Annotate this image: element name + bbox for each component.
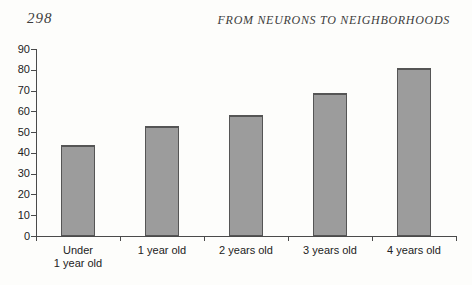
x-tick	[372, 237, 373, 241]
y-tick-label: 50	[4, 126, 30, 139]
x-tick	[288, 237, 289, 241]
bar	[313, 93, 347, 236]
x-tick	[204, 237, 205, 241]
x-tick	[456, 237, 457, 241]
y-axis-line	[36, 49, 37, 237]
y-tick	[31, 194, 36, 195]
x-tick	[120, 237, 121, 241]
y-tick	[31, 215, 36, 216]
y-tick-label: 90	[4, 43, 30, 56]
x-category-label: 4 years old	[364, 244, 464, 257]
x-category-label-line: 1 year old	[28, 257, 128, 270]
book-page: 298 FROM NEURONS TO NEIGHBORHOODS 010203…	[0, 0, 472, 285]
y-tick	[31, 153, 36, 154]
y-tick-label: 40	[4, 146, 30, 159]
y-tick-label: 20	[4, 188, 30, 201]
bar-chart: 0102030405060708090Under1 year old1 year…	[0, 0, 472, 285]
bar	[61, 145, 95, 236]
y-tick-label: 30	[4, 167, 30, 180]
y-tick	[31, 132, 36, 133]
y-tick	[31, 174, 36, 175]
y-tick-label: 60	[4, 105, 30, 118]
x-axis-line	[36, 236, 457, 237]
y-tick-label: 70	[4, 84, 30, 97]
x-category-label-line: 4 years old	[364, 244, 464, 257]
y-tick	[31, 91, 36, 92]
x-tick	[36, 237, 37, 241]
y-tick	[31, 70, 36, 71]
bar	[145, 126, 179, 236]
y-tick	[31, 111, 36, 112]
y-tick	[31, 49, 36, 50]
bar	[397, 68, 431, 236]
y-tick-label: 10	[4, 209, 30, 222]
y-tick-label: 0	[4, 230, 30, 243]
bar	[229, 115, 263, 236]
y-tick-label: 80	[4, 63, 30, 76]
